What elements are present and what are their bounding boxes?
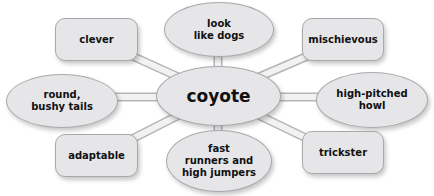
node-label: high-pitched howl — [336, 88, 407, 112]
node-trickster: trickster — [302, 131, 384, 174]
node-label: mischievous — [308, 34, 378, 46]
node-adaptable: adaptable — [55, 134, 138, 177]
node-clever: clever — [55, 18, 138, 61]
center-node-coyote: coyote — [156, 66, 281, 126]
node-mischievous: mischievous — [302, 18, 384, 61]
node-round-bushy-tails: round, bushy tails — [6, 74, 118, 128]
node-label: look like dogs — [194, 18, 245, 42]
node-look-like-dogs: look like dogs — [164, 2, 274, 57]
node-label: round, bushy tails — [31, 89, 93, 113]
node-high-pitched-howl: high-pitched howl — [316, 72, 428, 128]
node-label: adaptable — [68, 150, 125, 162]
node-label: fast runners and high jumpers — [182, 143, 256, 179]
node-label: trickster — [319, 147, 367, 159]
center-label: coyote — [186, 86, 250, 106]
node-fast-runners: fast runners and high jumpers — [166, 130, 272, 192]
coyote-concept-web: clever look like dogs mischievous round,… — [0, 0, 434, 196]
node-label: clever — [79, 34, 113, 46]
